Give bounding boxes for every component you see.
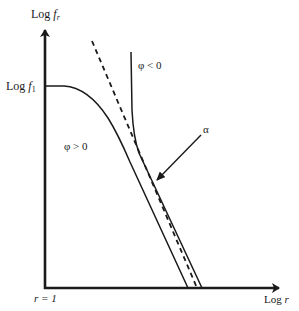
curve-label-phi-negative: φ < 0 <box>138 59 162 71</box>
log-log-diagram: Log fr Log f1 φ < 0 φ > 0 α r = 1 Log r <box>0 0 299 311</box>
y-axis-label: Log fr <box>31 7 61 22</box>
alpha-pointer-arrow <box>157 135 201 180</box>
x-axis-label: Log r <box>264 293 289 305</box>
alpha-label: α <box>203 123 209 135</box>
curve-label-phi-positive: φ > 0 <box>64 140 88 152</box>
origin-label: r = 1 <box>34 292 57 304</box>
y-tick-label-logf1: Log f1 <box>6 79 36 94</box>
curve-phi-positive <box>45 86 188 288</box>
